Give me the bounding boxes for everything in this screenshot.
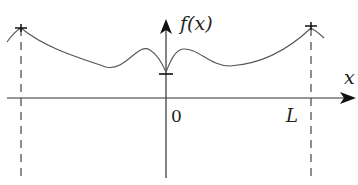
origin-label: 0 xyxy=(171,106,182,126)
period-label: L xyxy=(285,105,298,126)
right-peak-marker xyxy=(305,22,317,30)
periodic-function-diagram: f(x) x 0 L xyxy=(0,0,358,185)
x-axis-label: x xyxy=(344,66,355,88)
y-axis-label: f(x) xyxy=(178,12,213,34)
